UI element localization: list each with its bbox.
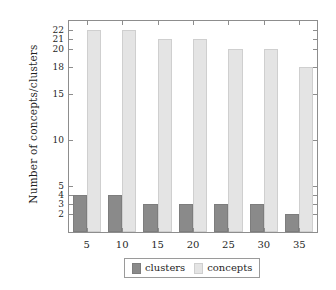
y-tick-label-3: 3 [58,200,69,209]
y-tick-mark [69,49,73,50]
y-tick-mark [69,94,73,95]
legend-entry-clusters[interactable]: clusters [132,263,185,274]
legend-label-concepts: concepts [207,263,252,273]
y-tick-mark [313,140,317,141]
bar-concepts-20[interactable] [193,39,207,232]
y-tick-mark [69,140,73,141]
x-tick-mark [299,228,300,232]
x-tick-mark [264,21,265,25]
y-tick-mark [69,30,73,31]
y-tick-mark [313,94,317,95]
bar-group [69,21,104,232]
y-tick-mark [313,67,317,68]
y-tick-mark [313,30,317,31]
bar-clusters-5[interactable] [73,195,87,232]
y-tick-mark [313,214,317,215]
y-tick-mark [313,195,317,196]
x-tick-label-20: 20 [187,232,200,250]
bar-clusters-25[interactable] [214,204,228,232]
y-tick-label-15: 15 [53,90,69,99]
x-tick-label-30: 30 [257,232,270,250]
bar-concepts-35[interactable] [299,67,313,232]
y-axis-title: Number of concepts/clusters [27,19,39,229]
y-tick-mark [313,204,317,205]
bar-concepts-10[interactable] [122,30,136,232]
y-tick-label-20: 20 [53,44,69,53]
x-tick-mark [87,228,88,232]
legend-entry-concepts[interactable]: concepts [194,263,252,274]
y-tick-label-22: 22 [53,26,69,35]
y-tick-label-10: 10 [53,136,69,145]
bar-group [140,21,175,232]
bar-clusters-20[interactable] [179,204,193,232]
bar-concepts-15[interactable] [158,39,172,232]
y-tick-label-21: 21 [53,35,69,44]
y-tick-mark [313,49,317,50]
x-tick-label-25: 25 [222,232,235,250]
legend-swatch-concepts [194,263,203,274]
x-tick-mark [264,228,265,232]
x-tick-mark [193,228,194,232]
bar-clusters-35[interactable] [285,214,299,232]
x-tick-mark [87,21,88,25]
y-tick-mark [69,186,73,187]
bar-clusters-30[interactable] [250,204,264,232]
x-tick-label-15: 15 [151,232,164,250]
x-tick-mark [228,21,229,25]
y-tick-label-18: 18 [53,62,69,71]
legend-label-clusters: clusters [145,263,185,273]
y-tick-mark [69,195,73,196]
x-tick-mark [299,21,300,25]
y-tick-mark [313,39,317,40]
y-tick-mark [69,204,73,205]
y-tick-mark [69,214,73,215]
x-tick-mark [158,228,159,232]
y-tick-mark [313,186,317,187]
bar-group [282,21,317,232]
chart-legend: clustersconcepts [124,258,260,278]
y-tick-label-2: 2 [58,209,69,218]
x-tick-mark [193,21,194,25]
y-tick-mark [69,39,73,40]
bar-concepts-25[interactable] [228,49,242,232]
bar-concepts-30[interactable] [264,49,278,232]
bar-group [246,21,281,232]
bar-series-container [69,21,317,232]
x-tick-label-35: 35 [293,232,306,250]
y-tick-mark [69,67,73,68]
legend-swatch-clusters [132,263,141,274]
plot-area: 51015202530352345101518202122 [68,20,318,233]
x-tick-label-5: 5 [84,232,90,250]
x-tick-mark [158,21,159,25]
x-tick-mark [122,228,123,232]
x-tick-mark [228,228,229,232]
bar-chart-figure: Number of concepts/clusters 510152025303… [0,0,336,290]
bar-group [104,21,139,232]
x-tick-mark [122,21,123,25]
bar-concepts-5[interactable] [87,30,101,232]
bar-clusters-10[interactable] [108,195,122,232]
bar-clusters-15[interactable] [143,204,157,232]
y-tick-label-4: 4 [58,191,69,200]
y-tick-label-5: 5 [58,182,69,191]
bar-group [175,21,210,232]
x-tick-label-10: 10 [116,232,129,250]
bar-group [211,21,246,232]
